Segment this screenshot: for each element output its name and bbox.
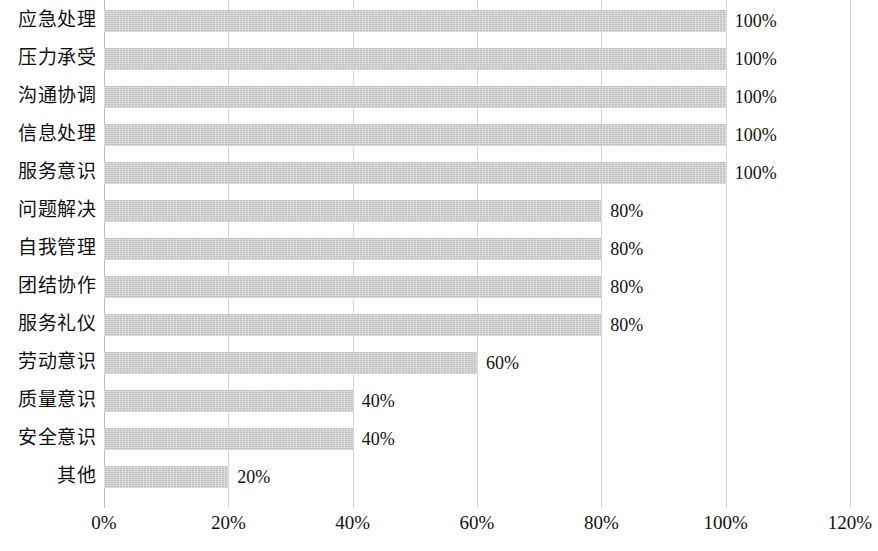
bar-row: 团结协作80% [104,267,850,305]
bar [104,86,726,108]
category-label: 压力承受 [18,39,96,77]
category-label: 其他 [57,457,96,495]
bar-row: 压力承受100% [104,39,850,77]
bar-row: 信息处理100% [104,115,850,153]
category-label: 应急处理 [18,1,96,39]
category-label: 质量意识 [18,381,96,419]
bar-row: 服务意识100% [104,153,850,191]
category-label: 问题解决 [18,191,96,229]
bar [104,352,477,374]
bar-row: 其他20% [104,457,850,495]
bar [104,124,726,146]
x-tick-label: 120% [828,512,872,534]
bar-value-label: 80% [610,238,643,260]
bar-value-label: 40% [362,428,395,450]
category-label: 沟通协调 [18,77,96,115]
bar [104,238,601,260]
gridline-120% [850,0,851,508]
x-tick-label: 80% [584,512,619,534]
bar-row: 安全意识40% [104,419,850,457]
bar [104,466,228,488]
bar-chart: 应急处理100%压力承受100%沟通协调100%信息处理100%服务意识100%… [0,0,878,551]
bar-value-label: 100% [735,124,777,146]
bar-row: 问题解决80% [104,191,850,229]
bar-row: 质量意识40% [104,381,850,419]
x-axis: 0%20%40%60%80%100%120% [104,512,850,544]
bar [104,48,726,70]
bar-value-label: 20% [237,466,270,488]
bar-row: 劳动意识60% [104,343,850,381]
bar-value-label: 100% [735,86,777,108]
x-tick-label: 20% [211,512,246,534]
x-tick-label: 100% [703,512,747,534]
plot-area: 应急处理100%压力承受100%沟通协调100%信息处理100%服务意识100%… [104,0,850,508]
bar [104,428,353,450]
x-tick-label: 40% [335,512,370,534]
bar-value-label: 100% [735,48,777,70]
bar-value-label: 80% [610,200,643,222]
bar [104,162,726,184]
bar [104,390,353,412]
category-label: 自我管理 [18,229,96,267]
bar-value-label: 60% [486,352,519,374]
bar [104,200,601,222]
category-label: 团结协作 [18,267,96,305]
bar-value-label: 40% [362,390,395,412]
bar-value-label: 100% [735,162,777,184]
bar-row: 自我管理80% [104,229,850,267]
bar-value-label: 80% [610,314,643,336]
category-label: 劳动意识 [18,343,96,381]
category-label: 安全意识 [18,419,96,457]
x-tick-label: 60% [460,512,495,534]
bar [104,276,601,298]
x-tick-label: 0% [91,512,116,534]
category-label: 服务礼仪 [18,305,96,343]
category-label: 信息处理 [18,115,96,153]
bar-row: 服务礼仪80% [104,305,850,343]
bar [104,314,601,336]
bar-value-label: 100% [735,10,777,32]
bar-row: 沟通协调100% [104,77,850,115]
bar-value-label: 80% [610,276,643,298]
bar [104,10,726,32]
bar-row: 应急处理100% [104,1,850,39]
category-label: 服务意识 [18,153,96,191]
